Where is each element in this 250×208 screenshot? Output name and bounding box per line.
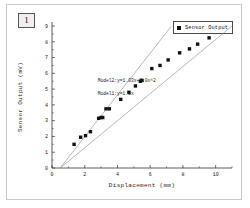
scatter-plot: 02468100123456789Displacement (mm)Sensor… bbox=[0, 0, 250, 208]
data-point bbox=[108, 107, 111, 110]
x-tick-label: 2 bbox=[83, 172, 86, 178]
x-tick-label: 6 bbox=[149, 172, 152, 178]
data-point bbox=[158, 64, 161, 67]
x-tick-label: 0 bbox=[50, 172, 53, 178]
data-point bbox=[84, 134, 87, 137]
y-tick-label: 7 bbox=[45, 55, 48, 61]
y-tick-label: 3 bbox=[45, 118, 48, 124]
data-point bbox=[79, 136, 82, 139]
x-tick-label: 4 bbox=[116, 172, 119, 178]
x-tick-label: 8 bbox=[181, 172, 184, 178]
y-tick-label: 5 bbox=[45, 87, 48, 93]
data-point bbox=[207, 36, 210, 39]
y-tick-label: 4 bbox=[45, 103, 48, 109]
y-tick-label: 1 bbox=[45, 150, 48, 156]
model-fit-line bbox=[60, 26, 232, 168]
data-point bbox=[188, 47, 191, 50]
model-fit-line bbox=[60, 26, 171, 168]
data-point bbox=[72, 143, 75, 146]
model-equation-annotation: Model1:y=1.2x bbox=[98, 91, 134, 96]
x-tick-label: 10 bbox=[213, 172, 219, 178]
data-point bbox=[104, 107, 107, 110]
y-tick-label: 0 bbox=[45, 166, 48, 172]
y-axis-title: Sensor Output (mV) bbox=[17, 62, 24, 132]
y-tick-label: 8 bbox=[45, 40, 48, 46]
data-point bbox=[119, 98, 122, 101]
data-point bbox=[166, 58, 169, 61]
data-point bbox=[134, 84, 137, 87]
data-point bbox=[196, 42, 199, 45]
data-point bbox=[89, 130, 92, 133]
data-point bbox=[101, 116, 104, 119]
data-point bbox=[150, 67, 153, 70]
y-tick-label: 6 bbox=[45, 71, 48, 77]
model-equation-annotation: Model2:y=1.03x+0.0x^2 bbox=[98, 78, 156, 83]
y-tick-label: 2 bbox=[45, 134, 48, 140]
y-tick-label: 9 bbox=[45, 24, 48, 30]
data-point bbox=[178, 51, 181, 54]
x-axis-title: Displacement (mm) bbox=[109, 182, 175, 189]
